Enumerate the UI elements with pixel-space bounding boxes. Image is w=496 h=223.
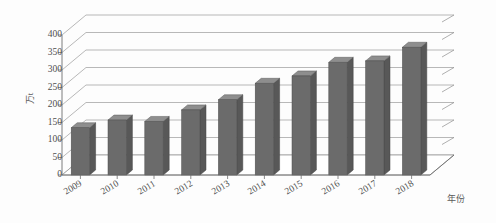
x-tick-label-2018: 2018 — [394, 178, 415, 196]
x-tick-label-2015: 2015 — [283, 178, 304, 196]
x-tick-label-2009: 2009 — [62, 178, 83, 196]
x-tick-label-2016: 2016 — [320, 178, 341, 196]
x-axis-tick-labels: 2009201020112012201320142015201620172018 — [0, 0, 496, 223]
bar-chart: 万t 400350300250200150100500 200920102011… — [0, 0, 496, 223]
x-tick-label-2011: 2011 — [136, 178, 157, 196]
x-tick-label-2010: 2010 — [99, 178, 120, 196]
x-tick-label-2017: 2017 — [357, 178, 378, 196]
x-tick-label-2014: 2014 — [246, 178, 267, 196]
x-tick-label-2012: 2012 — [173, 178, 194, 196]
x-tick-label-2013: 2013 — [210, 178, 231, 196]
x-axis-title: 年份 — [447, 192, 465, 205]
